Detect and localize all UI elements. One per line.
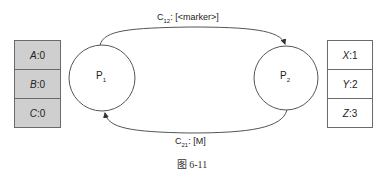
process-name: P xyxy=(280,70,287,81)
diagram-canvas xyxy=(0,0,384,179)
process-p2-label: P2 xyxy=(280,70,290,83)
process-subscript: 1 xyxy=(103,77,106,83)
channel-c12-arrow xyxy=(100,27,285,45)
channel-c12-label: C12: [<marker>] xyxy=(157,12,219,24)
figure-caption: 图 6-11 xyxy=(0,156,384,171)
process-p1-label: P1 xyxy=(96,70,106,83)
channel-content: : [M] xyxy=(188,136,206,146)
channel-c21-arrow xyxy=(105,110,287,133)
channel-content: : [<marker>] xyxy=(170,12,219,22)
channel-c21-label: C21: [M] xyxy=(175,136,206,148)
process-name: P xyxy=(96,70,103,81)
process-subscript: 2 xyxy=(287,77,290,83)
